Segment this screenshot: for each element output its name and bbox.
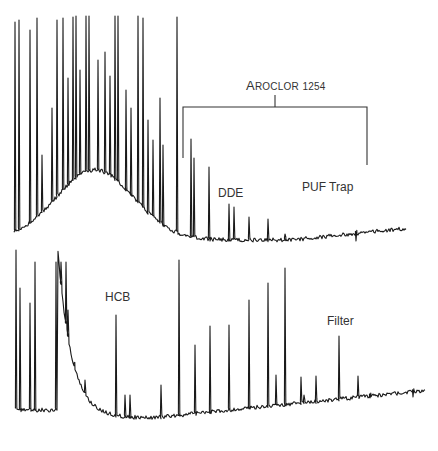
aroclor-label-first: A	[246, 78, 255, 93]
dde-label: DDE	[218, 186, 243, 200]
aroclor-label-number: 1254	[302, 81, 325, 92]
filter-label: Filter	[327, 314, 354, 328]
aroclor-label: AROCLOR 1254	[246, 78, 325, 93]
hcb-label: HCB	[105, 290, 130, 304]
puf-trap-label: PUF Trap	[302, 180, 353, 194]
aroclor-bracket	[183, 95, 367, 165]
aroclor-label-rest: ROCLOR	[255, 81, 299, 92]
filter-trace	[15, 250, 425, 419]
chromatogram-figure	[0, 0, 438, 451]
puf-trap-trace	[14, 16, 406, 242]
